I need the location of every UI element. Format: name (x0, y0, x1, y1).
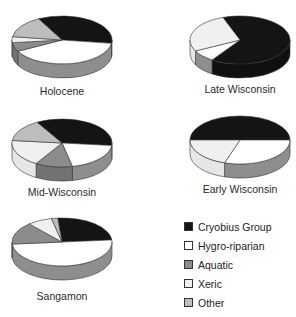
pie-early-wisconsin (186, 110, 294, 182)
pie-sangamon-graphic (8, 212, 116, 284)
label-late-wisconsin: Late Wisconsin (186, 83, 294, 95)
legend-label-xeric: Xeric (198, 278, 222, 290)
label-mid-wisconsin: Mid-Wisconsin (8, 186, 116, 198)
swatch-cryobius-icon (184, 222, 193, 231)
pie-late-wisconsin-graphic (186, 10, 294, 82)
pie-late-wisconsin (186, 10, 294, 82)
pie-holocene-graphic (8, 10, 116, 82)
legend-label-other: Other (198, 297, 224, 309)
label-early-wisconsin: Early Wisconsin (186, 183, 294, 195)
pie-holocene (8, 10, 116, 82)
swatch-other-icon (184, 298, 193, 307)
legend-item-aquatic: Aquatic (184, 255, 272, 274)
swatch-hygro-riparian-icon (184, 241, 193, 250)
label-sangamon: Sangamon (8, 290, 116, 302)
legend: Cryobius Group Hygro-riparian Aquatic Xe… (184, 217, 272, 312)
pie-mid-wisconsin (8, 113, 116, 185)
swatch-xeric-icon (184, 279, 193, 288)
legend-item-hygro-riparian: Hygro-riparian (184, 236, 272, 255)
swatch-aquatic-icon (184, 260, 193, 269)
legend-item-other: Other (184, 293, 272, 312)
legend-label-aquatic: Aquatic (198, 259, 233, 271)
pie-mid-wisconsin-graphic (8, 113, 116, 185)
pie-early-wisconsin-graphic (186, 110, 294, 182)
legend-label-hygro-riparian: Hygro-riparian (198, 240, 265, 252)
legend-item-cryobius: Cryobius Group (184, 217, 272, 236)
legend-label-cryobius: Cryobius Group (198, 221, 272, 233)
legend-item-xeric: Xeric (184, 274, 272, 293)
pie-sangamon (8, 212, 116, 284)
label-holocene: Holocene (8, 85, 116, 97)
